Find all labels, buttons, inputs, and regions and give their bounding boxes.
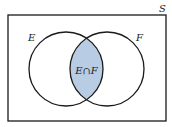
intersection-label: E∩F	[74, 65, 99, 76]
set-f-label: F	[135, 32, 144, 43]
venn-diagram: S E F E∩F	[0, 0, 172, 127]
set-e-label: E	[27, 32, 36, 43]
universe-label: S	[159, 3, 166, 14]
